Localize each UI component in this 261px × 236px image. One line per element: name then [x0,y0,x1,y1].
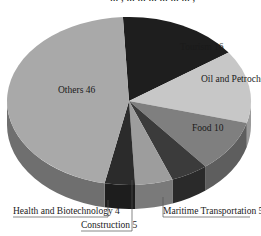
slice-label: Health and Biotechnology 4 [13,206,120,216]
slice-label: Tourism 16 [180,42,224,52]
slice-label: Oil and Petrochemicals 14 [201,74,261,84]
slice-label: Construction 5 [81,220,137,230]
slice-label: Food 10 [192,123,224,133]
slice-label: Maritime Transportation 5 [163,206,261,216]
slice-label: Others 46 [58,85,95,95]
pie-chart: Tourism 16Oil and Petrochemicals 14Food … [0,0,261,236]
